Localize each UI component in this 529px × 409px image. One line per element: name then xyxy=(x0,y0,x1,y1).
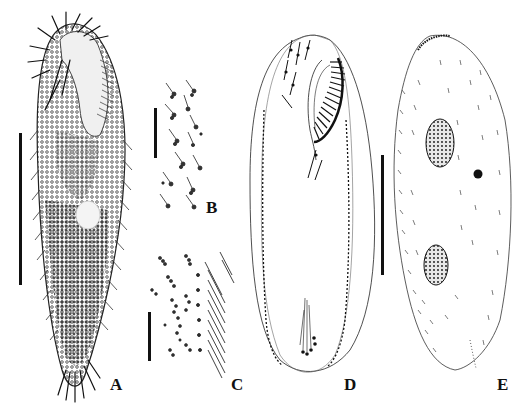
scale-bar-c xyxy=(148,312,151,361)
panel-label-a: A xyxy=(110,376,122,393)
panel-label-b: B xyxy=(206,199,217,216)
figure: A B C D E xyxy=(0,0,529,409)
figure-drawings xyxy=(0,0,529,409)
panel-b-drawing xyxy=(160,80,202,209)
panel-label-d: D xyxy=(344,376,356,393)
scale-bar-a xyxy=(19,133,22,285)
panel-label-c: C xyxy=(231,376,243,393)
panel-a-drawing xyxy=(28,12,132,402)
panel-e-drawing xyxy=(394,35,511,370)
panel-c-drawing xyxy=(151,252,234,378)
panel-d-drawing xyxy=(250,35,375,372)
scale-bar-b xyxy=(154,108,157,158)
panel-label-e: E xyxy=(497,376,508,393)
scale-bar-de xyxy=(381,155,384,275)
